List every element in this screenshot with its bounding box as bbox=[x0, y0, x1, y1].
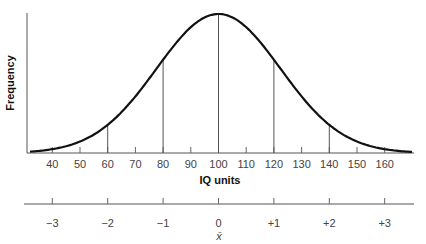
x-tick-label: 140 bbox=[320, 158, 338, 170]
sd-tick-label: −1 bbox=[157, 217, 170, 229]
x-tick-label: 150 bbox=[348, 158, 366, 170]
x-tick-label: 120 bbox=[265, 158, 283, 170]
x-tick-label: 50 bbox=[74, 158, 86, 170]
sd-ticks: −3−2−10+1+2+3 bbox=[46, 198, 391, 229]
x-tick-label: 110 bbox=[237, 158, 255, 170]
bell-curve bbox=[30, 14, 412, 152]
sd-tick-label: −2 bbox=[101, 217, 114, 229]
normal-curve-chart: 405060708090100110120130140150160 −3−2−1… bbox=[0, 0, 426, 244]
x-tick-label: 130 bbox=[292, 158, 310, 170]
vertical-guide-lines bbox=[108, 14, 330, 153]
x-tick-label: 90 bbox=[185, 158, 197, 170]
x-tick-label: 160 bbox=[376, 158, 394, 170]
x-tick-label: 60 bbox=[102, 158, 114, 170]
y-axis-title: Frequency bbox=[4, 54, 16, 111]
x-tick-label: 70 bbox=[129, 158, 141, 170]
sd-tick-label: −3 bbox=[46, 217, 59, 229]
sd-tick-label: +3 bbox=[378, 217, 391, 229]
x-tick-label: 100 bbox=[209, 158, 227, 170]
sd-tick-label: +1 bbox=[268, 217, 281, 229]
x-axis-title: IQ units bbox=[200, 174, 241, 186]
sd-tick-label: 0 bbox=[215, 217, 221, 229]
x-tick-label: 80 bbox=[157, 158, 169, 170]
x-ticks: 405060708090100110120130140150160 bbox=[46, 147, 394, 170]
sd-tick-label: +2 bbox=[323, 217, 336, 229]
x-tick-label: 40 bbox=[46, 158, 58, 170]
mean-symbol: x̄ bbox=[215, 230, 222, 242]
